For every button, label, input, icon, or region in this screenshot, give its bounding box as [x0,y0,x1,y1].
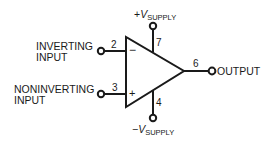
inverting-input-label: INVERTING INPUT [36,41,93,63]
inverting-sign: − [129,45,136,55]
output-terminal [209,68,216,75]
negative-supply-label: −VSUPPLY [132,124,174,136]
output-label: OUTPUT [217,66,260,77]
inverting-label-line2: INPUT [36,52,93,63]
positive-supply-label: +VSUPPLY [134,9,176,21]
noninverting-label-line2: INPUT [14,95,94,106]
pin-7-number: 7 [156,38,162,48]
pin-2-number: 2 [111,40,117,50]
inverting-input-terminal [98,48,104,54]
noninverting-input-label: NONINVERTING INPUT [14,84,94,106]
pin-6-number: 6 [193,59,199,69]
noninverting-sign: + [129,88,135,98]
positive-supply-terminal [150,23,156,29]
op-amp-diagram: INVERTING INPUT NONINVERTING INPUT 2 3 7… [0,0,273,142]
pin-3-number: 3 [112,83,118,93]
negative-supply-sub: SUPPLY [145,128,174,137]
negative-supply-terminal [150,115,156,121]
noninverting-input-terminal [98,91,104,97]
positive-supply-sub: SUPPLY [147,13,176,22]
pin-4-number: 4 [156,98,162,108]
